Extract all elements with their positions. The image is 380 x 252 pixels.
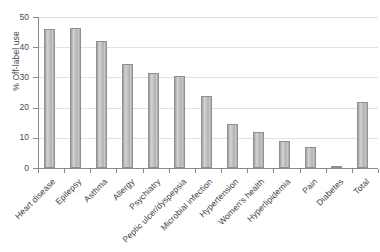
x-axis-tick — [143, 169, 144, 173]
bar — [279, 141, 290, 168]
bar — [44, 29, 55, 168]
gridline — [38, 17, 378, 18]
y-axis-tick-label: 0 — [0, 164, 29, 173]
x-axis-tick — [300, 169, 301, 173]
gridline — [38, 77, 378, 78]
bar — [253, 132, 264, 168]
bar — [305, 147, 316, 168]
x-axis-tick — [90, 169, 91, 173]
x-axis-tick — [221, 169, 222, 173]
bar — [122, 64, 133, 168]
x-axis-tick — [169, 169, 170, 173]
y-axis-tick-label: 10 — [0, 133, 29, 142]
bar — [148, 73, 159, 168]
x-axis-tick — [378, 169, 379, 173]
bar-chart: % Off-label use 01020304050 Heart diseas… — [0, 0, 380, 252]
bar — [174, 76, 185, 168]
bar — [70, 28, 81, 168]
y-axis-tick-label: 20 — [0, 103, 29, 112]
x-axis-tick-label: Hypertension — [93, 177, 240, 252]
x-axis-tick-label: Hyperlipidemia — [145, 177, 292, 252]
y-axis-tick-label: 30 — [0, 73, 29, 82]
plot-area — [38, 17, 378, 168]
x-axis-tick — [116, 169, 117, 173]
x-axis-tick — [247, 169, 248, 173]
bar — [227, 124, 238, 168]
x-axis-tick-label: Women's health — [119, 177, 266, 252]
x-axis-tick — [195, 169, 196, 173]
x-axis-tick — [273, 169, 274, 173]
x-axis-tick-label: Pain — [171, 177, 318, 252]
bar — [201, 96, 212, 168]
x-axis-tick — [352, 169, 353, 173]
x-axis-tick — [326, 169, 327, 173]
x-axis-tick — [64, 169, 65, 173]
x-axis-line — [38, 168, 378, 169]
y-axis-tick-label: 50 — [0, 13, 29, 22]
y-axis-tick-label: 40 — [0, 43, 29, 52]
gridline — [38, 47, 378, 48]
bar — [357, 102, 368, 168]
y-axis-line — [38, 17, 39, 169]
bar — [96, 41, 107, 168]
x-axis-tick — [38, 169, 39, 173]
